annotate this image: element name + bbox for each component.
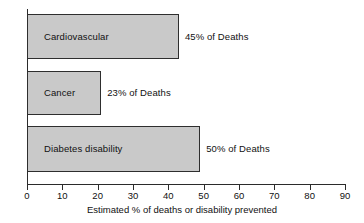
- bar-diabetes-disability[interactable]: Diabetes disability: [27, 126, 200, 172]
- x-axis-tick-label: 80: [304, 191, 315, 201]
- x-axis-tick-label: 40: [163, 191, 174, 201]
- bar-value-label: 50% of Deaths: [206, 144, 270, 154]
- x-axis-tick-label: 90: [340, 191, 351, 201]
- bar-cancer[interactable]: Cancer: [27, 71, 101, 115]
- bar-category-label: Diabetes disability: [44, 144, 122, 154]
- bar-value-label: 23% of Deaths: [107, 88, 171, 98]
- bar-category-label: Cancer: [44, 88, 75, 98]
- bar-category-label: Cardiovascular: [44, 32, 109, 42]
- plot-area: Cardiovascular 45% of Deaths Cancer 23% …: [0, 0, 364, 186]
- bar-value-label: 45% of Deaths: [185, 32, 249, 42]
- x-axis-tick-label: 50: [198, 191, 209, 201]
- x-axis-line: [27, 184, 346, 185]
- x-axis-tick-label: 30: [128, 191, 139, 201]
- x-axis-tick-label: 0: [24, 191, 29, 201]
- bar-cardiovascular[interactable]: Cardiovascular: [27, 14, 179, 59]
- x-axis-tick-label: 20: [92, 191, 103, 201]
- x-axis-tick-label: 60: [234, 191, 245, 201]
- x-axis-tick-label: 10: [57, 191, 68, 201]
- bar-chart: Cardiovascular 45% of Deaths Cancer 23% …: [0, 0, 364, 223]
- x-axis-tick-label: 70: [269, 191, 280, 201]
- x-axis-title: Estimated % of deaths or disability prev…: [0, 205, 364, 215]
